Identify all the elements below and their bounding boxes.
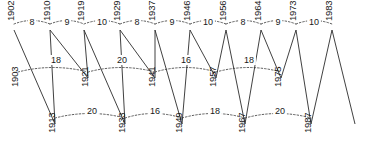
gap-label-top-5: 10	[203, 17, 213, 27]
year-label-top-1902: 1902	[5, 1, 16, 21]
gap-label-top-2: 10	[97, 17, 107, 27]
solid-link-segment	[332, 30, 355, 124]
cycle-diagram: 8910891089101820161820161820 19021910191…	[0, 0, 371, 149]
dotted-arc-middle	[18, 68, 88, 73]
year-label-top-1937: 1937	[146, 1, 157, 21]
year-label-bottom-1967: 1967	[236, 113, 247, 133]
year-label-bottom-1987: 1987	[302, 113, 313, 133]
year-label-top-1910: 1910	[41, 1, 52, 21]
gap-label-bottom-0: 20	[87, 106, 97, 116]
cycle-diagram-svg: 8910891089101820161820161820 19021910191…	[0, 0, 371, 149]
solid-link-segment	[50, 30, 55, 124]
year-label-top-1956: 1956	[217, 1, 228, 21]
gap-label-middle-3: 18	[244, 55, 254, 65]
solid-link-group	[14, 30, 355, 124]
year-label-top-1983: 1983	[323, 1, 334, 21]
year-label-middle-1957: 1957	[207, 67, 218, 87]
solid-link-segment	[281, 30, 296, 78]
gap-label-group: 8910891089101820161820161820	[28, 17, 321, 116]
solid-link-segment	[182, 30, 190, 124]
solid-link-segment	[120, 30, 125, 124]
dotted-link-group	[14, 21, 332, 119]
gap-label-top-6: 8	[240, 17, 245, 27]
gap-label-middle-2: 16	[181, 55, 191, 65]
gap-label-top-7: 9	[275, 17, 280, 27]
year-label-middle-1921: 1921	[79, 67, 90, 87]
solid-link-segment	[311, 30, 332, 124]
solid-link-segment	[14, 30, 55, 124]
solid-link-segment	[245, 30, 261, 124]
year-label-bottom-1933: 1933	[116, 113, 127, 133]
year-label-top-1946: 1946	[181, 1, 192, 21]
gap-label-bottom-3: 20	[275, 106, 285, 116]
year-label-top-1973: 1973	[287, 1, 298, 21]
year-label-middle-1941: 1941	[146, 67, 157, 87]
gap-label-bottom-2: 18	[210, 106, 220, 116]
year-label-bottom-1949: 1949	[173, 113, 184, 133]
year-label-top-1929: 1929	[111, 1, 122, 21]
gap-label-top-4: 9	[169, 17, 174, 27]
year-label-middle-1903: 1903	[9, 67, 20, 87]
gap-label-top-0: 8	[29, 17, 34, 27]
gap-label-middle-1: 20	[117, 55, 127, 65]
dotted-arc-middle	[88, 68, 155, 73]
gap-label-top-8: 10	[309, 17, 319, 27]
year-label-top-1919: 1919	[75, 1, 86, 21]
year-label-middle-1975: 1975	[272, 67, 283, 87]
year-label-top-1964: 1964	[252, 1, 263, 21]
gap-label-top-3: 8	[134, 17, 139, 27]
gap-label-bottom-1: 16	[150, 106, 160, 116]
year-label-bottom-1913: 1913	[46, 113, 57, 133]
solid-link-segment	[226, 30, 245, 124]
gap-label-top-1: 9	[64, 17, 69, 27]
solid-link-segment	[296, 30, 311, 124]
gap-label-middle-0: 18	[51, 55, 61, 65]
